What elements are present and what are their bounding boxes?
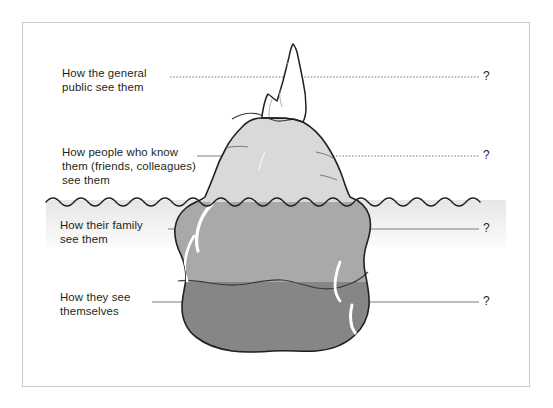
iceberg-peak — [262, 44, 306, 124]
zone-lower-underwater — [150, 282, 400, 362]
label-acquaintances: How people who know them (friends, colle… — [62, 145, 196, 188]
label-family: How their family see them — [60, 218, 143, 246]
label-public: How the general public see them — [62, 66, 147, 94]
iceberg-illustration — [0, 0, 553, 408]
question-mark-public: ? — [483, 69, 490, 83]
question-mark-acquaintances: ? — [483, 148, 490, 162]
label-self: How they see themselves — [60, 290, 130, 318]
iceberg-diagram-page: How the general public see them How peop… — [0, 0, 553, 408]
question-mark-family: ? — [483, 221, 490, 235]
question-mark-self: ? — [483, 294, 490, 308]
zone-upper-underwater — [150, 202, 400, 282]
